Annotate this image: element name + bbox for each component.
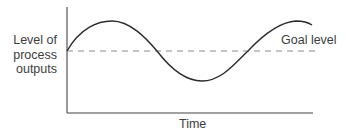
goal-level-label: Goal level <box>281 33 337 47</box>
y-axis-label: Level of process outputs <box>0 33 57 77</box>
y-axis-label-line-3: outputs <box>0 62 57 77</box>
x-axis-label: Time <box>179 117 206 131</box>
y-axis-label-line-1: Level of <box>0 33 57 48</box>
y-axis-label-line-2: process <box>0 48 57 63</box>
process-output-diagram: Level of process outputs Goal level Time <box>0 0 346 134</box>
